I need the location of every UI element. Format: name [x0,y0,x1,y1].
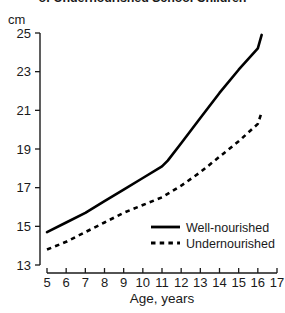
x-tick-label: 8 [101,275,108,290]
legend-label-well-nourished: Well-nourished [186,221,269,235]
chart-plot-area: 13151719212325 567891011121314151617 Wel… [0,0,285,313]
y-tick-label: 17 [17,180,31,195]
x-tick-label: 6 [63,275,70,290]
chart-legend: Well-nourishedUndernourished [151,221,275,251]
x-tick-label: 7 [82,275,89,290]
x-axis-title: Age, years [130,291,195,306]
growth-chart-figure: of Undernourished School Children cm 131… [0,0,285,313]
x-tick-label: 13 [193,275,207,290]
y-tick-label: 25 [17,26,31,41]
x-tick-label: 5 [43,275,50,290]
data-series-group [47,35,262,250]
series-line-well-nourished [47,35,262,232]
y-tick-label: 23 [17,64,31,79]
legend-label-undernourished: Undernourished [186,237,275,251]
y-tick-label: 21 [17,103,31,118]
x-tick-label: 14 [212,275,226,290]
x-tick-label: 17 [270,275,284,290]
x-tick-label: 9 [120,275,127,290]
x-tick-label: 15 [231,275,245,290]
x-tick-label: 12 [174,275,188,290]
y-tick-label: 15 [17,219,31,234]
y-tick-label: 19 [17,142,31,157]
x-axis: 567891011121314151617 [43,268,284,290]
x-tick-label: 10 [136,275,150,290]
x-tick-label: 16 [251,275,265,290]
x-tick-label: 11 [155,275,169,290]
y-axis: 13151719212325 [17,26,40,273]
y-tick-label: 13 [17,258,31,273]
